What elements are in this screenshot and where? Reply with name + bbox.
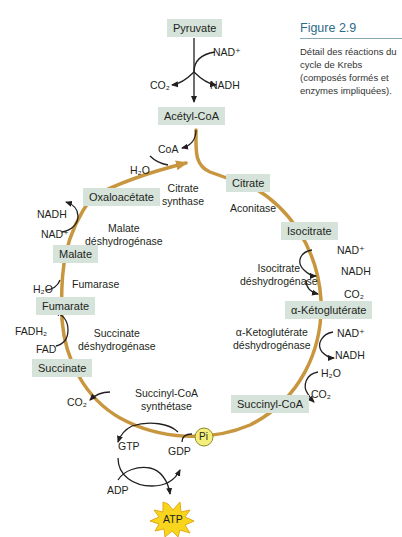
enzyme-malate-dehydrogenase: Malate déshydrogénase <box>85 222 163 248</box>
compound-succinyl-coa: Succinyl-CoA <box>231 395 309 413</box>
caption-divider <box>300 38 402 39</box>
compound-pyruvate: Pyruvate <box>167 19 222 37</box>
cofactor-mdh-nadh: NADH <box>37 208 67 220</box>
compound-oxaloacetate: Oxaloacétate <box>83 188 160 206</box>
enzyme-aconitase: Aconitase <box>230 202 276 215</box>
compound-citrate: Citrate <box>226 174 270 192</box>
enzyme-fumarase: Fumarase <box>72 278 119 291</box>
enzyme-akg-dehydrogenase: α-Ketoglutérate déshydrogénase <box>233 326 311 352</box>
figure-caption: Détail des réactions du cycle de Krebs (… <box>300 45 402 97</box>
cofactor-akg-nad: NAD⁺ <box>337 327 365 339</box>
cofactor-pdh-nad: NAD⁺ <box>213 46 241 58</box>
cofactor-gdp: GDP <box>168 445 191 457</box>
cofactor-adp: ADP <box>107 484 129 496</box>
cofactor-idh-nadh: NADH <box>341 265 371 277</box>
compound-alpha-ketoglutarate: α-Kétoglutérate <box>285 301 372 319</box>
cofactor-idh-nad: NAD⁺ <box>337 244 365 256</box>
cofactor-sdh-fadh2: FADH₂ <box>15 325 47 337</box>
enzyme-isocitrate-dehydrogenase: Isocitrate déshydrogénase <box>240 262 318 288</box>
cofactor-idh-co2: CO₂ <box>344 288 364 300</box>
compound-acetyl-coa: Acétyl-CoA <box>158 107 225 125</box>
cofactor-mdh-nad: NAD⁺ <box>41 228 69 240</box>
figure-title: Figure 2.9 <box>300 21 356 35</box>
compound-fumarate: Fumarate <box>36 297 95 315</box>
cofactor-coa: CoA <box>158 143 178 155</box>
enzyme-succinyl-coa-synthetase: Succinyl-CoA synthétase <box>135 387 198 413</box>
cofactor-pi: Pi <box>199 431 208 442</box>
cofactor-sdh-fad: FAD <box>36 343 56 355</box>
enzyme-succinate-dehydrogenase: Succinate déshydrogénase <box>78 327 156 353</box>
cofactor-pdh-co2: CO₂ <box>150 79 170 91</box>
compound-isocitrate: Isocitrate <box>281 222 338 240</box>
cofactor-pdh-nadh: NADH <box>210 79 240 91</box>
cofactor-akg-h2o: H₂O <box>321 367 341 379</box>
cofactor-fumarase-h2o: H₂O <box>33 283 53 295</box>
cofactor-gtp: GTP <box>118 440 140 452</box>
cofactor-cs-h2o: H₂O <box>130 164 150 176</box>
cofactor-atp: ATP <box>163 513 183 525</box>
cofactor-scs-co2: CO₂ <box>67 396 87 408</box>
compound-succinate: Succinate <box>32 359 92 377</box>
cofactor-akg-nadh: NADH <box>335 349 365 361</box>
cofactor-akg-co2: CO₂ <box>311 388 331 400</box>
enzyme-citrate-synthase: Citrate synthase <box>162 182 204 208</box>
